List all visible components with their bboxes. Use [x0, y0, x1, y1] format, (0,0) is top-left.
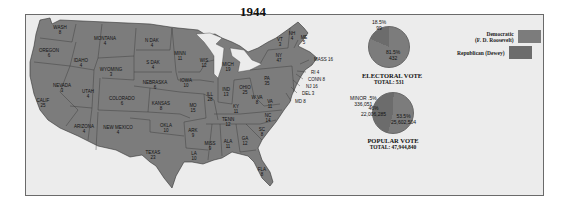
legend-republican-swatch [509, 46, 532, 59]
state-label-okla: OKLA10 [160, 123, 172, 133]
legend-republican-label: Republican (Dewey) [457, 50, 505, 56]
callout-label: MASS 16 [314, 57, 333, 62]
callout-label: NJ 16 [306, 84, 318, 89]
state-label-wis: WIS12 [200, 58, 209, 68]
callout-label: CONN 8 [308, 77, 325, 82]
state-label-mich: MICH19 [222, 62, 234, 72]
state-label-colorado: COLORADO6 [109, 96, 135, 106]
state-label-ky: KY11 [233, 104, 239, 114]
state-label-ala: ALA11 [224, 139, 233, 149]
state-label-wash: WASH8 [53, 25, 66, 35]
state-label-nc: NC14 [265, 113, 272, 123]
state-label-nh: NH4 [289, 31, 296, 41]
state-label-ark: ARK9 [188, 128, 197, 138]
state-label-texas: TEXAS23 [146, 150, 161, 160]
state-label-pa: PA35 [264, 76, 270, 86]
state-label-calif: CALIF25 [37, 98, 50, 108]
legend-republican: Republican (Dewey) [457, 46, 567, 59]
state-label-ill: ILL28 [207, 92, 213, 102]
state-label-ohio: OHIO25 [239, 85, 251, 95]
state-label-sc: SC8 [259, 127, 265, 137]
state-label-idaho: IDAHO4 [74, 58, 88, 68]
state-label-vt: VT3 [277, 37, 283, 47]
state-label-n-dak: N DAK4 [145, 38, 159, 48]
legend-democratic-swatch [518, 30, 541, 43]
state-label-ny: NY47 [276, 53, 282, 63]
legend-democratic-label: Democratic(F. D. Roosevelt) [475, 31, 514, 43]
state-label-va: VA11 [267, 99, 273, 109]
callout-label: RI 4 [311, 70, 319, 75]
state-label-iowa: IOWA10 [180, 78, 192, 88]
callout-label: MD 8 [295, 99, 306, 104]
state-label-wyoming: WYOMING3 [100, 67, 123, 77]
state-label-tenn: TENN12 [222, 117, 234, 127]
state-label-la: LA10 [191, 151, 197, 161]
state-label-s-dak: S DAK4 [146, 60, 160, 70]
legend-democratic: Democratic(F. D. Roosevelt) [475, 30, 567, 43]
state-label-new-mexico: NEW MEXICO4 [103, 125, 133, 135]
electoral-vote-pie [368, 26, 410, 68]
state-label-fla: FLA8 [258, 167, 266, 177]
popular-republican-label: 46%22,006,285 [361, 106, 386, 117]
state-label-kansas: KANSAS8 [152, 101, 170, 111]
state-label-nebraska: NEBRASKA6 [143, 80, 168, 90]
state-label-montana: MONTANA4 [94, 36, 116, 46]
state-label-minn: MINN11 [174, 51, 186, 61]
state-label-miss: MISS9 [204, 141, 215, 151]
state-label-oregon: OREGON6 [39, 48, 59, 58]
electoral-democratic-label: 81.5%432 [386, 50, 400, 61]
electoral-vote-title: ELECTORAL VOTETOTAL: 531 [362, 72, 416, 86]
callout-label: DEL 3 [302, 91, 314, 96]
state-label-ind: IND13 [222, 87, 230, 97]
electoral-republican-label: 18.5%99 [372, 20, 386, 31]
state-label-me: ME5 [301, 35, 308, 45]
state-label-w-va: W VA8 [251, 95, 262, 105]
state-label-utah: UTAH4 [82, 89, 94, 99]
state-label-ga: GA12 [242, 136, 249, 146]
popular-democratic-label: 53.5%25,602,504 [391, 114, 416, 125]
popular-vote-title: POPULAR VOTETOTAL: 47,944,840 [360, 137, 426, 151]
state-label-arizona: ARIZONA4 [74, 124, 94, 134]
state-label-nevada: NEVADA3 [53, 83, 71, 93]
state-label-mo: MO15 [189, 103, 196, 113]
map-title: 1944 [240, 4, 266, 20]
